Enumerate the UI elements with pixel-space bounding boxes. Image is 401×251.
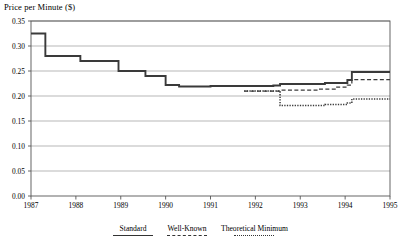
legend-swatch-solid-line-icon bbox=[113, 235, 153, 240]
legend-item[interactable]: Theoretical Minimum bbox=[221, 224, 288, 240]
gridlines bbox=[31, 21, 390, 171]
chart-legend: StandardWell-KnownTheoretical Minimum bbox=[0, 224, 401, 240]
legend-swatch-dashed-line-icon bbox=[167, 235, 207, 240]
data-series-group bbox=[31, 34, 390, 106]
chart-container: Price per Minute ($) 0.000.050.100.150.2… bbox=[0, 0, 401, 251]
x-tick-label: 1988 bbox=[68, 201, 83, 210]
y-tick-label: 0.35 bbox=[12, 17, 25, 26]
legend-item[interactable]: Well-Known bbox=[167, 224, 207, 240]
x-tick-label: 1992 bbox=[248, 201, 263, 210]
x-tick-label: 1991 bbox=[203, 201, 218, 210]
x-tick-label: 1990 bbox=[158, 201, 173, 210]
x-tick-label: 1994 bbox=[338, 201, 353, 210]
plot-frame bbox=[31, 21, 390, 196]
y-tick-label: 0.15 bbox=[12, 117, 25, 126]
legend-swatch-dotted-line-icon bbox=[234, 235, 274, 240]
chart-plot-area: 0.000.050.100.150.200.250.300.35 1987198… bbox=[0, 0, 401, 224]
y-tick-label: 0.20 bbox=[12, 92, 25, 101]
legend-item[interactable]: Standard bbox=[113, 224, 153, 240]
y-tick-label: 0.25 bbox=[12, 67, 25, 76]
x-tick-label: 1987 bbox=[24, 201, 39, 210]
legend-label: Well-Known bbox=[168, 224, 207, 233]
legend-label: Standard bbox=[120, 224, 147, 233]
plot-frame-rect bbox=[31, 21, 390, 196]
x-tick-label: 1989 bbox=[113, 201, 128, 210]
x-axis-tick-labels: 198719881989199019911992199319941995 bbox=[24, 201, 398, 210]
series-line-standard bbox=[31, 34, 390, 87]
x-tick-label: 1995 bbox=[383, 201, 398, 210]
y-tick-label: 0.05 bbox=[12, 167, 25, 176]
y-tick-label: 0.10 bbox=[12, 142, 25, 151]
x-tick-label: 1993 bbox=[293, 201, 308, 210]
x-axis-ticks bbox=[31, 196, 390, 200]
series-line-theoretical-minimum bbox=[244, 91, 390, 106]
y-axis-tick-labels: 0.000.050.100.150.200.250.300.35 bbox=[12, 17, 25, 201]
legend-label: Theoretical Minimum bbox=[221, 224, 288, 233]
y-tick-label: 0.30 bbox=[12, 42, 25, 51]
y-tick-label: 0.00 bbox=[12, 192, 25, 201]
